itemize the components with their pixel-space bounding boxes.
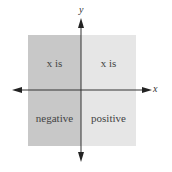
x-axis-label: x <box>153 83 157 94</box>
y-axis-label: y <box>79 4 83 15</box>
axes <box>0 0 172 172</box>
